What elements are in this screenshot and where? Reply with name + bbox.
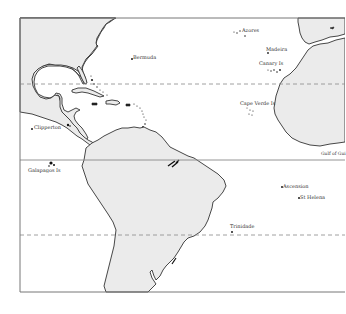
madeira-islands (267, 52, 269, 54)
africa-landmass (274, 38, 345, 146)
hispaniola (106, 100, 120, 105)
label-clipperton: Clipperton (34, 125, 61, 130)
bermuda-marker (131, 58, 133, 60)
galapagos-islands (48, 161, 55, 166)
cape-verde-islands (247, 108, 254, 116)
label-madeira: Madeira (266, 47, 287, 52)
jamaica (92, 103, 97, 105)
label-bermuda: Bermuda (133, 55, 156, 60)
trinidade-marker (231, 231, 233, 233)
label-ascension: Ascension (283, 184, 309, 189)
label-canary-islands: Canary Is (259, 61, 283, 66)
label-st-helena: St Helena (300, 195, 325, 200)
clipperton-marker (31, 128, 33, 130)
st-helena-marker (298, 197, 300, 199)
label-azores: Azores (242, 28, 259, 33)
canary-islands (267, 69, 281, 73)
cuba (72, 88, 104, 97)
label-gulf-of-guinea: Gulf of Gui (321, 152, 346, 157)
label-galapagos-islands: Galapagos Is (28, 168, 61, 173)
lesser-antilles (133, 103, 146, 128)
label-trinidade: Trinidade (230, 224, 255, 229)
label-cape-verde-islands: Cape Verde Is (240, 101, 275, 106)
puerto-rico (126, 104, 130, 106)
ascension-marker (281, 186, 283, 188)
south-america-landmass (82, 127, 226, 292)
